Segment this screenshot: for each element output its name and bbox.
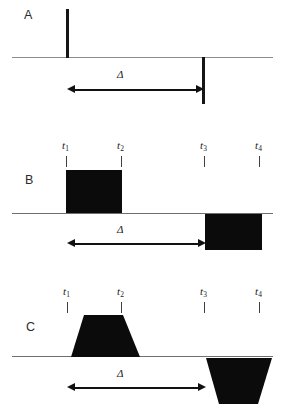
arrow-head-right-icon	[198, 383, 206, 391]
panel-b-time-label-t4: t4	[255, 139, 262, 151]
panel-c-pulse-negative	[0, 282, 290, 418]
panel-b-time-label-t2: t2	[117, 139, 124, 151]
panel-a-impulse-negative	[202, 57, 205, 104]
panel-a-impulse-positive	[66, 9, 69, 58]
arrow-head-right-icon	[198, 239, 206, 247]
panel-b-tick-t2	[121, 156, 122, 167]
panel-b-label: B	[25, 173, 34, 187]
panel-b-delta-arrow	[67, 239, 206, 248]
panel-a-baseline	[12, 57, 273, 58]
panel-c-delta-label: Δ	[117, 367, 123, 379]
panel-a-label: A	[24, 8, 33, 22]
gradient-pulse-figure: A Δ B t1 t2 t3 t4 Δ	[0, 0, 290, 418]
panel-a: A Δ	[0, 0, 290, 136]
arrow-shaft	[71, 89, 200, 91]
panel-b-pulse-negative	[205, 214, 262, 250]
arrow-shaft	[71, 243, 202, 245]
panel-b-tick-t4	[259, 156, 260, 167]
trapezoid-down-shape	[206, 358, 272, 404]
panel-b-tick-t3	[204, 156, 205, 167]
panel-c-delta-arrow	[67, 383, 206, 392]
panel-b-time-label-t3: t3	[200, 139, 207, 151]
panel-b: B t1 t2 t3 t4 Δ	[0, 136, 290, 272]
panel-b-pulse-positive	[66, 170, 122, 213]
panel-b-delta-label: Δ	[117, 223, 123, 235]
panel-b-tick-t1	[66, 156, 67, 167]
arrow-head-right-icon	[196, 85, 204, 93]
panel-a-delta-label: Δ	[117, 68, 123, 80]
panel-b-time-label-t1: t1	[62, 139, 69, 151]
arrow-shaft	[71, 387, 202, 389]
panel-a-delta-arrow	[67, 85, 204, 94]
panel-c: C t1 t2 t3 t4 Δ	[0, 282, 290, 418]
